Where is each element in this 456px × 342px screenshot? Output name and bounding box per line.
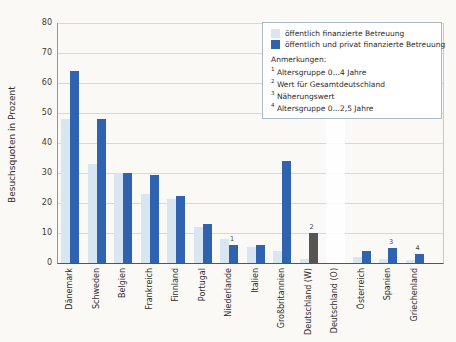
y-tick-30: 30 (28, 168, 52, 178)
legend-swatch-dark-icon (271, 40, 280, 49)
legend-box: öffentlich finanzierte Betreuung öffentl… (262, 22, 442, 119)
bar-dark-Österreich (362, 251, 371, 263)
bar-light-Spanien (379, 259, 388, 264)
legend-item-public-private: öffentlich und privat finanzierte Betreu… (271, 39, 441, 50)
bar-chart: Besuchsquoten in Prozent öffentlich fina… (0, 0, 456, 342)
bar-dark-Portugal (203, 224, 212, 263)
legend-notes: Anmerkungen: 1 Altersgruppe 0…4 Jahre2 W… (271, 55, 441, 113)
x-label-Österreich: Österreich (357, 268, 366, 309)
bar-dark-Belgien (123, 173, 132, 263)
x-label-Niederlande: Niederlande (224, 268, 233, 317)
bar-note-marker-1: 1 (230, 236, 234, 243)
y-tick-20: 20 (28, 198, 52, 208)
bar-dark-Dänemark (70, 71, 79, 263)
bar-dark-Deutschland (W) (309, 233, 318, 263)
bar-light-Deutschland (W) (300, 259, 309, 264)
bar-dark-Frankreich (150, 175, 159, 264)
bar-dark-Finnland (176, 196, 185, 264)
bar-light-Belgien (114, 173, 123, 263)
x-label-Schweden: Schweden (92, 268, 101, 309)
x-label-Griechenland: Griechenland (410, 268, 419, 321)
y-tick-50: 50 (28, 108, 52, 118)
x-label-Frankreich: Frankreich (145, 268, 154, 310)
bar-note-marker-3: 3 (389, 239, 393, 246)
x-label-Großbritannien: Großbritannien (277, 268, 286, 328)
bar-dark-Spanien (388, 248, 397, 263)
gridline-40 (58, 143, 443, 144)
note-line-1: 1 Altersgruppe 0…4 Jahre (271, 65, 441, 77)
y-tick-10: 10 (28, 228, 52, 238)
legend-item-public: öffentlich finanzierte Betreuung (271, 28, 441, 39)
legend-swatch-light-icon (271, 29, 280, 38)
x-label-Deutschland (O): Deutschland (O) (330, 268, 339, 333)
bar-dark-Italien (256, 245, 265, 263)
bar-light-Griechenland (406, 260, 415, 263)
bar-light-Portugal (194, 227, 203, 263)
note-line-2: 2 Wert für Gesamtdeutschland (271, 77, 441, 89)
legend-label-public-private: öffentlich und privat finanzierte Betreu… (285, 40, 445, 49)
x-label-Belgien: Belgien (118, 268, 127, 298)
y-tick-40: 40 (28, 138, 52, 148)
bar-light-Großbritannien (273, 251, 282, 263)
bar-dark-Griechenland (415, 254, 424, 263)
x-label-Portugal: Portugal (198, 268, 207, 301)
notes-title: Anmerkungen: (271, 55, 441, 65)
x-label-Finnland: Finnland (171, 268, 180, 302)
bar-light-Finnland (167, 199, 176, 264)
y-tick-70: 70 (28, 48, 52, 58)
bar-dark-Niederlande (229, 245, 238, 263)
notes-list: 1 Altersgruppe 0…4 Jahre2 Wert für Gesam… (271, 65, 441, 113)
bar-light-Schweden (88, 164, 97, 263)
x-label-Spanien: Spanien (383, 268, 392, 300)
bar-dark-Großbritannien (282, 161, 291, 263)
bar-light-Niederlande (220, 239, 229, 263)
bar-light-Frankreich (141, 194, 150, 263)
note-line-3: 3 Näherungswert (271, 89, 441, 101)
y-tick-60: 60 (28, 78, 52, 88)
x-label-Italien: Italien (251, 268, 260, 293)
y-axis-title: Besuchsquoten in Prozent (7, 86, 17, 203)
legend-label-public: öffentlich finanzierte Betreuung (285, 29, 404, 38)
y-tick-80: 80 (28, 18, 52, 28)
bar-dark-Schweden (97, 119, 106, 263)
bar-note-marker-2: 2 (310, 224, 314, 231)
bar-light-Österreich (353, 257, 362, 263)
bar-light-Italien (247, 247, 256, 264)
bar-light-Dänemark (61, 119, 70, 263)
x-label-Deutschland (W): Deutschland (W) (304, 268, 313, 335)
x-label-Dänemark: Dänemark (65, 268, 74, 310)
note-line-4: 4 Altersgruppe 0…2,5 Jahre (271, 101, 441, 113)
bar-note-marker-4: 4 (416, 245, 420, 252)
y-tick-0: 0 (28, 258, 52, 268)
